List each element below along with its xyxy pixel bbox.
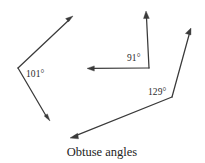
angle-label-101: 101° — [26, 69, 45, 79]
ray-vertical-up-arrowhead-icon — [144, 11, 150, 19]
angle-middle-group: 91° — [87, 11, 149, 71]
ray-upper-left-arrowhead-icon — [66, 16, 73, 22]
ray-upper-right — [172, 28, 191, 97]
angle-label-91: 91° — [127, 53, 141, 63]
ray-upper-right-line — [172, 33, 190, 98]
ray-lower-long-left-line — [75, 97, 173, 136]
obtuse-angles-figure: 101° 91° 129° Obtuse angles — [0, 0, 205, 163]
ray-vertical-up — [144, 11, 150, 68]
ray-upper-left-line — [18, 20, 70, 69]
figure-caption: Obtuse angles — [67, 145, 138, 159]
angle-right-group: 129° — [70, 28, 191, 139]
ray-lower-long-left — [70, 97, 172, 139]
ray-horizontal-left — [87, 66, 149, 71]
angle-left-group: 101° — [18, 16, 73, 121]
angle-label-129: 129° — [148, 87, 167, 97]
ray-lower-long-left-arrowhead-icon — [70, 133, 79, 139]
ray-upper-right-arrowhead-icon — [185, 28, 191, 35]
ray-horizontal-left-arrowhead-icon — [87, 66, 94, 71]
ray-vertical-up-line — [146, 16, 149, 69]
ray-upper-left — [18, 16, 73, 68]
